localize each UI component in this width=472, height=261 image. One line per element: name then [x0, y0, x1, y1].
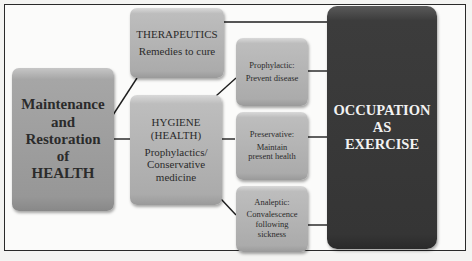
node-label-line: EXERCISE	[345, 136, 419, 153]
node-subtitle-line: present health	[248, 152, 295, 162]
node-label-line: of	[57, 148, 70, 165]
node-label-line: OCCUPATION	[334, 102, 431, 119]
node-preservative: Preservative: Maintain present health	[236, 112, 308, 180]
node-subtitle: Remedies to cure	[139, 45, 215, 58]
node-title: Analeptic:	[254, 198, 289, 208]
node-subtitle-line: medicine	[156, 171, 196, 184]
node-hygiene: HYGIENE (HEALTH) Prophylactics/ Conserva…	[130, 95, 222, 205]
node-analeptic: Analeptic: Convalescence following sickn…	[236, 186, 308, 252]
node-label-line: Maintenance	[21, 96, 104, 113]
connector-hygiene-analeptic	[221, 199, 236, 215]
node-therapeutics: THERAPEUTICS Remedies to cure	[130, 8, 224, 78]
node-prophylactic: Prophylactic: Prevent disease	[236, 38, 308, 106]
node-subtitle-line: Conservative	[147, 158, 205, 171]
connector-hygiene-prophylactic	[216, 78, 236, 96]
node-label-line: AS	[373, 119, 392, 136]
node-maintenance-restoration-health: Maintenance and Restoration of HEALTH	[12, 68, 114, 211]
node-occupation-as-exercise: OCCUPATION AS EXERCISE	[327, 6, 437, 249]
node-title: Preservative:	[250, 130, 294, 140]
node-label-line: Restoration	[26, 131, 101, 148]
node-title-line: (HEALTH)	[151, 129, 201, 142]
node-subtitle-line: Prophylactics/	[145, 146, 208, 159]
node-subtitle-line: sickness	[258, 230, 286, 240]
node-label-line: and	[51, 114, 75, 131]
node-title: THERAPEUTICS	[136, 28, 217, 41]
node-title: Prophylactic:	[249, 61, 294, 71]
node-subtitle: Prevent disease	[246, 74, 299, 84]
node-label-line: HEALTH	[32, 165, 95, 182]
node-title-line: HYGIENE	[152, 116, 201, 129]
